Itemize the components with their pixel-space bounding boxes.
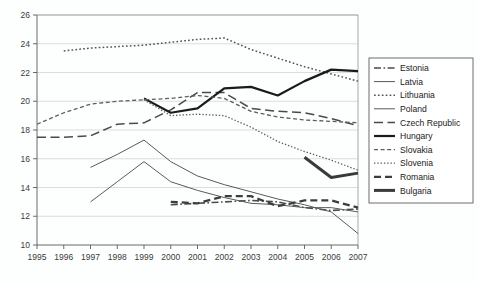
series-line-hungary	[144, 70, 358, 113]
legend-label-lithuania: Lithuania	[400, 90, 435, 100]
legend-label-estonia: Estonia	[400, 63, 429, 73]
legend-label-latvia: Latvia	[400, 77, 423, 87]
x-tick-label: 2000	[161, 252, 180, 262]
y-tick-label: 16	[21, 154, 31, 164]
line-chart: 101214161820222426 199519961997199819992…	[0, 0, 477, 283]
x-tick-label: 1999	[135, 252, 154, 262]
y-tick-label: 20	[21, 96, 31, 106]
y-tick-label: 10	[21, 240, 31, 250]
x-axis-tick-labels: 1995199619971998199920002001200220032004…	[28, 245, 368, 262]
series-line-romania	[171, 196, 358, 208]
y-tick-label: 26	[21, 10, 31, 20]
y-tick-label: 24	[21, 39, 31, 49]
data-series	[37, 38, 358, 234]
y-tick-label: 12	[21, 211, 31, 221]
x-tick-label: 1996	[54, 252, 73, 262]
series-line-slovenia	[144, 100, 358, 170]
series-line-lithuania	[64, 38, 358, 81]
x-tick-label: 2002	[215, 252, 234, 262]
x-tick-label: 2003	[242, 252, 261, 262]
legend-label-poland: Poland	[400, 104, 427, 114]
legend-label-hungary: Hungary	[400, 131, 433, 141]
x-tick-label: 2007	[349, 252, 368, 262]
legend-label-slovakia: Slovakia	[400, 145, 433, 155]
x-tick-label: 2004	[268, 252, 287, 262]
y-tick-label: 14	[21, 183, 31, 193]
x-tick-label: 1998	[108, 252, 127, 262]
gridlines	[37, 15, 358, 216]
series-line-bulgaria	[305, 157, 359, 177]
y-tick-label: 18	[21, 125, 31, 135]
x-tick-label: 2001	[188, 252, 207, 262]
series-line-slovakia	[37, 96, 358, 125]
chart-canvas: 101214161820222426 199519961997199819992…	[0, 0, 477, 283]
series-line-czech-republic	[37, 93, 358, 138]
x-tick-label: 2006	[322, 252, 341, 262]
series-line-latvia	[91, 140, 359, 233]
legend-label-romania: Romania	[400, 172, 435, 182]
y-tick-label: 22	[21, 68, 31, 78]
y-axis-tick-labels: 101214161820222426	[21, 10, 37, 250]
x-tick-label: 1997	[81, 252, 100, 262]
x-tick-label: 1995	[28, 252, 47, 262]
legend-label-czech-republic: Czech Republic	[400, 118, 461, 128]
x-tick-label: 2005	[295, 252, 314, 262]
legend-label-bulgaria: Bulgaria	[400, 186, 432, 196]
legend-label-slovenia: Slovenia	[400, 158, 433, 168]
chart-legend: EstoniaLatviaLithuaniaPolandCzech Republ…	[369, 58, 473, 203]
